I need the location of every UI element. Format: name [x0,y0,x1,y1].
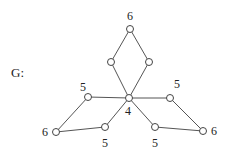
vertex-label-right-outer: 6 [211,124,217,138]
vertex-label-right-lower: 5 [152,136,158,150]
vertex-right-outer [200,128,207,135]
vertex-label-top: 6 [127,9,133,23]
edge-left-upper-left-outer [56,97,88,132]
edge-top-top-right [130,29,149,62]
vertex-left-upper [85,94,92,101]
vertex-right-lower [152,124,159,131]
edge-center-left-upper [88,97,129,98]
vertex-right-upper [167,95,174,102]
vertex-top [127,26,134,33]
vertex-center [126,95,133,102]
vertex-left-outer [53,129,60,136]
edge-right-upper-right-outer [170,98,203,131]
vertex-top-left [108,59,115,66]
edge-right-outer-right-lower [155,127,203,131]
vertex-label-left-outer: 6 [42,125,48,139]
edge-left-outer-left-lower [56,127,105,132]
edge-top-right-center [129,62,149,98]
edge-right-lower-center [129,98,155,127]
vertex-label-right-upper: 5 [174,77,180,91]
vertex-label-left-upper: 5 [80,80,86,94]
vertex-left-lower [102,124,109,131]
graph-nodes [53,26,207,136]
vertex-label-left-lower: 5 [102,136,108,150]
graph-diagram: 64565565 [0,0,230,154]
vertex-top-right [146,59,153,66]
vertex-label-center: 4 [125,104,131,118]
edge-top-top-left [111,29,130,62]
edge-top-left-center [111,62,129,98]
